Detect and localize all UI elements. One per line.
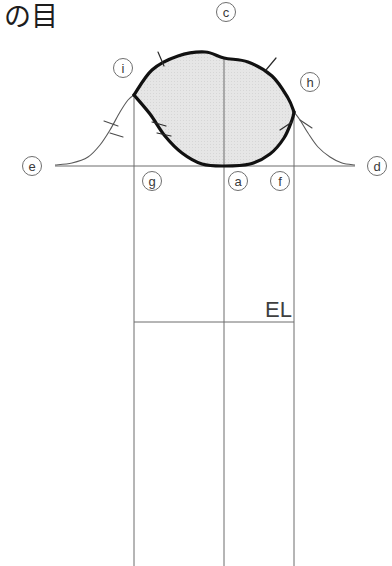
- right-tail: [294, 112, 355, 165]
- diagram-canvas: cihedgaf EL の目: [0, 0, 392, 566]
- horizontal-construction-lines: [55, 166, 355, 322]
- point-label-a: a: [234, 174, 242, 189]
- eye-shaded-region: [134, 52, 294, 166]
- point-marker-e: e: [23, 157, 42, 176]
- page-title: の目: [4, 1, 58, 32]
- point-label-c: c: [223, 5, 230, 20]
- point-label-e: e: [28, 159, 35, 174]
- point-marker-a: a: [229, 172, 248, 191]
- right-tail-tick: [300, 120, 312, 128]
- upper-right-arc-tick: [266, 58, 276, 70]
- left-tail: [55, 95, 134, 165]
- eye-construction-diagram: cihedgaf EL の目: [0, 0, 392, 566]
- point-label-h: h: [306, 75, 313, 90]
- point-label-i: i: [122, 61, 125, 76]
- point-marker-h: h: [301, 73, 320, 92]
- left-tail-tick-2: [110, 133, 123, 137]
- el-label: EL: [265, 297, 292, 322]
- point-label-g: g: [148, 174, 155, 189]
- point-label-f: f: [278, 174, 282, 189]
- point-marker-i: i: [114, 59, 133, 78]
- point-marker-d: d: [368, 157, 387, 176]
- left-tail-tick-1: [104, 121, 118, 126]
- point-marker-f: f: [271, 172, 290, 191]
- point-label-d: d: [373, 159, 380, 174]
- point-marker-g: g: [143, 172, 162, 191]
- point-marker-c: c: [217, 3, 236, 22]
